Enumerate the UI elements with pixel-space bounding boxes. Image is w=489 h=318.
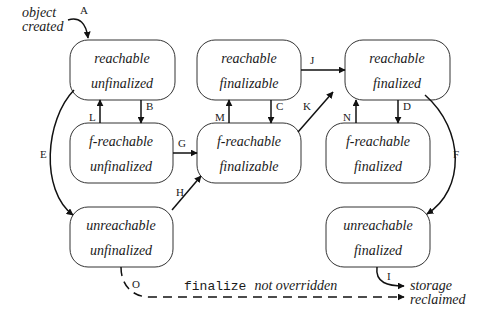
svg-text:M: M	[215, 111, 225, 123]
svg-text:L: L	[89, 111, 96, 123]
state-reachable-finalizable: reachable finalizable	[197, 40, 301, 100]
transition-c: C	[271, 100, 283, 123]
transition-g: G	[173, 137, 197, 153]
svg-text:D: D	[403, 100, 411, 112]
svg-text:K: K	[303, 100, 311, 112]
svg-text:finalizable: finalizable	[219, 159, 278, 174]
svg-text:C: C	[276, 100, 283, 112]
svg-text:B: B	[146, 100, 153, 112]
svg-text:unreachable: unreachable	[86, 218, 155, 233]
finalization-state-diagram: object created A reachable unfinalized r…	[0, 0, 489, 318]
transition-label-a: A	[80, 4, 88, 16]
end-note-line2: reclaimed	[410, 292, 466, 307]
state-f-reachable-finalized: f-reachable finalized	[326, 123, 430, 183]
svg-text:O: O	[132, 278, 140, 290]
svg-text:finalized: finalized	[354, 243, 403, 258]
svg-text:finalized: finalized	[373, 76, 422, 91]
end-note-line1: storage	[410, 278, 452, 293]
svg-text:G: G	[178, 137, 186, 149]
svg-text:H: H	[176, 186, 184, 198]
svg-text:unfinalized: unfinalized	[90, 159, 153, 174]
transition-l: L	[89, 100, 100, 123]
transition-e: E	[40, 90, 74, 215]
transition-k: K	[298, 92, 333, 132]
transition-h: H	[172, 176, 201, 210]
svg-text:reachable: reachable	[94, 51, 149, 66]
svg-text:finalized: finalized	[354, 159, 403, 174]
svg-text:E: E	[40, 148, 47, 160]
state-reachable-finalized: reachable finalized	[345, 40, 450, 100]
transition-n: N	[343, 100, 356, 123]
start-note-line1: object	[22, 5, 57, 20]
svg-text:unfinalized: unfinalized	[90, 243, 153, 258]
svg-text:J: J	[310, 54, 315, 66]
transition-j: J	[301, 54, 345, 70]
svg-text:F: F	[453, 148, 459, 160]
transition-d: D	[398, 100, 411, 123]
state-unreachable-unfinalized: unreachable unfinalized	[70, 207, 173, 267]
state-f-reachable-unfinalized: f-reachable unfinalized	[70, 123, 173, 183]
svg-text:I: I	[387, 270, 391, 282]
state-f-reachable-finalizable: f-reachable finalizable	[197, 123, 301, 183]
dashed-note-text: not overridden	[254, 278, 337, 293]
transition-i: I	[377, 267, 404, 286]
svg-text:N: N	[343, 111, 351, 123]
svg-text:unfinalized: unfinalized	[91, 76, 154, 91]
start-note-line2: created	[22, 19, 64, 34]
svg-text:reachable: reachable	[369, 51, 424, 66]
state-unreachable-finalized: unreachable finalized	[326, 207, 430, 267]
transition-m: M	[215, 100, 229, 123]
transition-a: A	[68, 4, 88, 38]
svg-text:f-reachable: f-reachable	[89, 134, 153, 149]
svg-text:finalizable: finalizable	[219, 76, 278, 91]
state-reachable-unfinalized: reachable unfinalized	[70, 40, 175, 100]
svg-text:unreachable: unreachable	[343, 218, 412, 233]
svg-text:reachable: reachable	[221, 51, 276, 66]
transition-b: B	[141, 100, 153, 123]
svg-text:f-reachable: f-reachable	[346, 134, 410, 149]
dashed-note-code: finalize	[184, 279, 246, 294]
svg-text:f-reachable: f-reachable	[217, 134, 281, 149]
dashed-note: finalize not overridden	[184, 276, 337, 294]
